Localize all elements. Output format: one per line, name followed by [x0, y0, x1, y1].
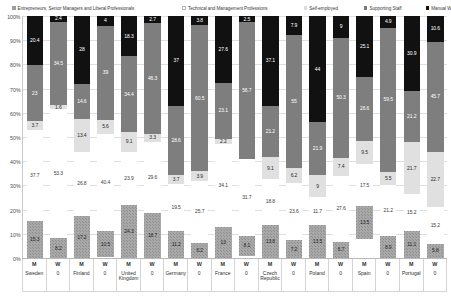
- bar-segment-value: 7.9: [291, 23, 298, 28]
- x-axis-gender-label: M: [221, 261, 226, 268]
- bar-segment-self_employed: 7.4: [333, 158, 349, 176]
- bar-segment-supporting: 55: [286, 35, 302, 168]
- legend-swatch-manual-icon: [426, 6, 430, 10]
- stacked-bar[interactable]: 27.623.12.234.113: [215, 16, 231, 258]
- stacked-bar[interactable]: 2.556.7031.78.1: [239, 16, 255, 258]
- x-axis-country-label: Finland: [73, 271, 89, 277]
- stacked-bar[interactable]: 4421.9911.713.5: [309, 16, 325, 258]
- x-axis-country-label: 0: [151, 271, 154, 277]
- bar-segment-technical: 19.5: [168, 184, 184, 231]
- bar-segment-value: 13.5: [313, 239, 322, 244]
- bar-segment-supporting: 21.2: [262, 106, 278, 157]
- bar-segment-supporting: 28.6: [168, 106, 184, 175]
- bar-segment-self_employed: 9: [309, 175, 325, 197]
- x-axis-cell: MCzech Republic: [259, 259, 283, 292]
- bar-segment-value: 13.4: [77, 133, 86, 138]
- stacked-bar[interactable]: 2.746.33.329.618.7: [144, 16, 160, 258]
- bar-segment-value: 10.5: [101, 242, 110, 247]
- bar-segment-self_employed: 3.7: [27, 121, 43, 130]
- x-axis-cell: W0: [188, 259, 212, 292]
- legend-label: Entrepreneurs, Senior Managers and Liber…: [18, 6, 135, 11]
- legend-item-self_employed[interactable]: Self-employed: [304, 6, 338, 11]
- bar-segment-manual: 18.3: [121, 16, 137, 56]
- bar-segment-value: 18.7: [148, 233, 157, 238]
- bar-segment-supporting: 45.7: [427, 42, 443, 153]
- x-axis-cell: W0: [376, 259, 400, 292]
- bar-segment-entrepreneurs: 8.1: [239, 236, 255, 256]
- bar-segment-value: 9.1: [126, 139, 133, 144]
- bar-segment-supporting: 14.6: [74, 84, 90, 119]
- bar-slot: 4421.9911.713.5: [306, 16, 330, 258]
- bar-segment-value: 24.3: [124, 229, 133, 234]
- y-axis-tick-label: 50%: [10, 135, 20, 141]
- bar-segment-supporting: 56.7: [239, 22, 255, 159]
- stacked-bar[interactable]: 25.126.69.517.513.5: [356, 16, 372, 258]
- bar-slot: 18.334.49.123.924.3: [117, 16, 141, 258]
- bar-segment-entrepreneurs: 18.7: [144, 213, 160, 258]
- x-axis-gender-label: M: [79, 261, 84, 268]
- stacked-bar[interactable]: 10.645.722.715.25.8: [427, 16, 443, 258]
- bar-segment-technical: 27.6: [333, 176, 349, 242]
- bar-segment-value: 23: [32, 91, 37, 96]
- bar-segment-value: 53.3: [54, 171, 63, 176]
- bar-segment-entrepreneurs: 10.5: [97, 231, 113, 256]
- bar-segment-value: 50.3: [336, 95, 345, 100]
- bar-slot: 2.434.51.653.38.2: [47, 16, 71, 258]
- x-axis-gender-label: W: [385, 261, 390, 268]
- bar-segment-value: 7.2: [291, 247, 298, 252]
- bar-slot: 2.746.33.329.618.7: [141, 16, 165, 258]
- bar-segment-supporting: 21.2: [404, 91, 420, 142]
- bar-segment-technical: 53.3: [50, 109, 66, 238]
- bar-segment-self_employed: 3.7: [168, 175, 184, 184]
- y-axis-tick-label: 20%: [10, 208, 20, 214]
- bar-segment-technical: 23.6: [286, 183, 302, 240]
- stacked-bar[interactable]: 18.334.49.123.924.3: [121, 16, 137, 258]
- stacked-bar[interactable]: 3728.63.719.511.2: [168, 16, 184, 258]
- legend-item-entrepreneurs[interactable]: Entrepreneurs, Senior Managers and Liber…: [12, 6, 134, 11]
- bar-segment-entrepreneurs: 11.1: [404, 231, 420, 258]
- bar-segment-value: 7.4: [338, 164, 345, 169]
- bar-segment-value: 28: [79, 47, 84, 52]
- y-axis-tick-label: 90%: [10, 38, 20, 44]
- legend-item-supporting[interactable]: Supporting Staff: [364, 6, 402, 11]
- stacked-bar[interactable]: 950.37.427.66.7: [333, 16, 349, 258]
- bar-segment-self_employed: 5.6: [97, 120, 113, 134]
- legend-swatch-technical-icon: [182, 6, 186, 10]
- stacked-bar[interactable]: 4.959.55.521.28.9: [380, 16, 396, 258]
- bar-segment-value: 10.6: [431, 26, 440, 31]
- bar-segment-value: 55: [291, 99, 296, 104]
- bar-segment-manual: 4.9: [380, 16, 396, 28]
- x-axis-gender-label: M: [173, 261, 178, 268]
- bar-segment-technical: 31.7: [239, 159, 255, 236]
- bar-segment-value: 3.7: [173, 177, 180, 182]
- bar-slot: 10.645.722.715.25.8: [424, 16, 448, 258]
- x-axis-cell: MGermany: [164, 259, 188, 292]
- bar-segment-manual: 10.6: [427, 16, 443, 42]
- stacked-bar[interactable]: 7.9556.223.67.2: [286, 16, 302, 258]
- stacked-bar[interactable]: 4395.640.410.5: [97, 16, 113, 258]
- bar-segment-self_employed: 3.9: [191, 171, 207, 180]
- x-axis-gender-label: M: [362, 261, 367, 268]
- x-axis-gender-label: M: [315, 261, 320, 268]
- x-axis-country-label: United Kingdom: [117, 271, 140, 283]
- bar-segment-manual: 4: [97, 16, 113, 26]
- bar-slot: 27.623.12.234.113: [212, 16, 236, 258]
- bar-slot: 4.959.55.521.28.9: [376, 16, 400, 258]
- stacked-bar[interactable]: 2.434.51.653.38.2: [50, 16, 66, 258]
- stacked-bar[interactable]: 3.860.53.925.76.2: [191, 16, 207, 258]
- bar-segment-entrepreneurs: 5.8: [427, 244, 443, 258]
- x-axis-cell: W0: [329, 259, 353, 292]
- x-axis-cell: W0: [282, 259, 306, 292]
- stacked-bar[interactable]: 20.4233.737.715.3: [27, 16, 43, 258]
- bar-segment-entrepreneurs: 7.2: [286, 240, 302, 257]
- bar-segment-value: 21.2: [407, 114, 416, 119]
- stacked-bar[interactable]: 37.121.29.118.813.8: [262, 16, 278, 258]
- stacked-bar[interactable]: 2814.613.426.817.2: [74, 16, 90, 258]
- bar-segment-entrepreneurs: 8.2: [50, 238, 66, 258]
- bar-segment-value: 34.1: [219, 183, 228, 188]
- legend-item-manual[interactable]: Manual Workers: [426, 6, 451, 11]
- legend-item-technical[interactable]: Technical and Management Professions: [182, 6, 267, 11]
- y-axis-tick-label: 10%: [10, 232, 20, 238]
- bar-segment-value: 26.8: [77, 181, 86, 186]
- stacked-bar[interactable]: 30.921.221.715.211.1: [404, 16, 420, 258]
